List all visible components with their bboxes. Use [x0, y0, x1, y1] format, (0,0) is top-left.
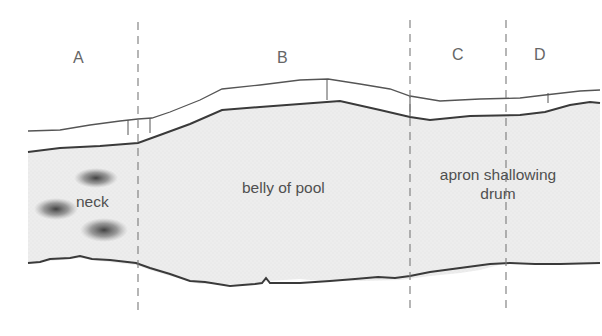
shoal-1	[74, 168, 118, 188]
region-label-neck: neck	[76, 194, 109, 210]
zone-label-c: C	[452, 47, 464, 63]
region-label-apron: apron shallowing drum	[426, 167, 570, 201]
zone-label-a: A	[73, 50, 84, 66]
region-label-belly: belly of pool	[242, 180, 325, 196]
shoal-3	[80, 218, 128, 242]
zone-label-d: D	[534, 47, 546, 63]
zone-label-b: B	[277, 50, 288, 66]
pool-riffle-diagram: A B C D neck belly of pool apron shallow…	[0, 0, 602, 336]
shoal-2	[34, 198, 78, 220]
apron-line-2: drum	[426, 186, 570, 202]
apron-line-1: apron shallowing	[426, 167, 570, 183]
